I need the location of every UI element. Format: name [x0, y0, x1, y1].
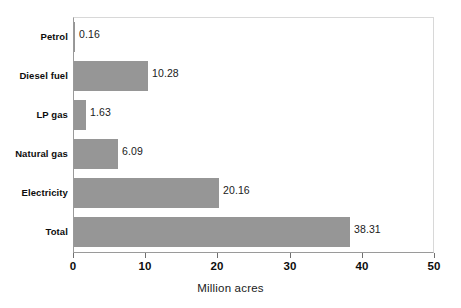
y-axis-label-petrol: Petrol — [0, 31, 68, 42]
x-tick-mark — [290, 253, 291, 258]
y-axis-category-labels: Petrol Diesel fuel LP gas Natural gas El… — [0, 18, 68, 253]
x-tick-mark — [145, 253, 146, 258]
bar-value-petrol: 0.16 — [79, 28, 100, 40]
bar-value-electricity: 20.16 — [223, 184, 250, 196]
bar-natural-gas[interactable] — [74, 139, 118, 169]
bars-layer: 0.16 10.28 1.63 6.09 20.16 38.31 — [74, 18, 434, 253]
bar-value-total: 38.31 — [354, 223, 381, 235]
bar-diesel-fuel[interactable] — [74, 61, 148, 91]
y-axis-label-electricity: Electricity — [0, 187, 68, 198]
x-tick-label-40: 40 — [356, 260, 369, 272]
x-tick-mark — [434, 253, 435, 258]
bar-chart: Petrol Diesel fuel LP gas Natural gas El… — [0, 0, 461, 308]
x-tick-mark — [73, 253, 74, 258]
bar-electricity[interactable] — [74, 178, 219, 208]
bar-petrol[interactable] — [74, 22, 75, 52]
x-tick-mark — [362, 253, 363, 258]
y-axis-label-diesel-fuel: Diesel fuel — [0, 70, 68, 81]
y-axis-label-natural-gas: Natural gas — [0, 148, 68, 159]
x-tick-label-30: 30 — [284, 260, 297, 272]
y-axis-label-total: Total — [0, 226, 68, 237]
bar-value-lp-gas: 1.63 — [90, 106, 111, 118]
bar-value-diesel-fuel: 10.28 — [152, 67, 179, 79]
x-tick-label-50: 50 — [428, 260, 441, 272]
x-tick-label-0: 0 — [70, 260, 76, 272]
x-tick-label-20: 20 — [211, 260, 224, 272]
y-axis-label-lp-gas: LP gas — [0, 109, 68, 120]
x-axis-title: Million acres — [0, 282, 461, 294]
bar-lp-gas[interactable] — [74, 100, 86, 130]
x-tick-mark — [217, 253, 218, 258]
x-tick-label-10: 10 — [139, 260, 152, 272]
bar-total[interactable] — [74, 217, 350, 247]
bar-value-natural-gas: 6.09 — [122, 145, 143, 157]
